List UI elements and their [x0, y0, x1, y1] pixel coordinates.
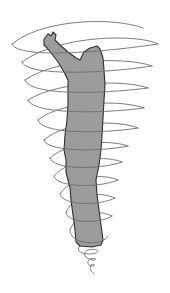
- figure-silhouette: [44, 32, 105, 247]
- illustration: [0, 0, 170, 293]
- spiral-tail: [78, 246, 97, 274]
- caption: [0, 283, 170, 293]
